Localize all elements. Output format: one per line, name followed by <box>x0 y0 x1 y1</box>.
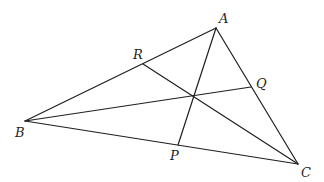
vertex-label-c: C <box>301 165 311 180</box>
point-label-r: R <box>132 47 143 62</box>
cevian-cr <box>143 64 298 164</box>
segments-group <box>25 28 298 164</box>
vertex-label-a: A <box>218 11 228 26</box>
point-label-p: P <box>169 148 179 163</box>
side-bc <box>25 121 298 164</box>
point-label-q: Q <box>256 76 267 91</box>
side-ca <box>216 28 298 164</box>
vertex-label-b: B <box>14 125 25 140</box>
triangle-diagram: A B C P Q R <box>0 0 324 182</box>
cevian-ap <box>178 28 216 145</box>
labels-group: A B C P Q R <box>14 11 311 180</box>
